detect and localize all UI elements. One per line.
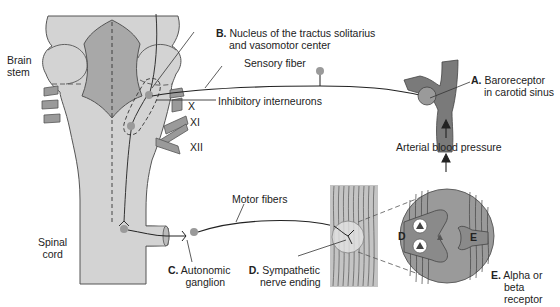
label-spinal-cord-line1: Spinal — [38, 236, 67, 248]
label-d: D. Sympathetic nerve ending — [248, 264, 321, 288]
label-c: C. Autonomic ganglion — [168, 264, 230, 288]
label-cranial-nerve-x: X — [188, 100, 195, 112]
label-cranial-nerve-xii: XII — [190, 141, 203, 153]
label-a-line1: Baroreceptor — [484, 74, 545, 86]
sensory-fiber-leader — [205, 66, 222, 88]
label-a: A. Baroreceptor in carotid sinus — [471, 74, 554, 98]
label-brain-stem-line1: Brain — [7, 54, 32, 66]
label-e: E. Alpha or beta receptor — [491, 269, 543, 305]
label-d-line2: nerve ending — [248, 276, 321, 288]
label-d-letter: D. — [249, 264, 260, 276]
label-cranial-nerve-xi: XI — [190, 116, 200, 128]
label-spinal-cord-line2: cord — [38, 248, 67, 260]
label-motor-fibers: Motor fibers — [232, 193, 287, 205]
label-c-line2: ganglion — [168, 276, 230, 288]
inset-label-d: D — [398, 230, 406, 242]
motor-fibers — [198, 221, 334, 232]
cranial-nerve-roots-left — [42, 86, 60, 123]
label-c-leader — [187, 240, 192, 262]
label-e-line2: beta — [491, 281, 543, 293]
label-arterial-blood-pressure: Arterial blood pressure — [396, 141, 502, 153]
label-brain-stem: Brain stem — [7, 54, 32, 78]
label-b: B. Nucleus of the tractus solitarius and… — [216, 27, 375, 51]
label-c-letter: C. — [168, 264, 179, 276]
carotid-artery — [404, 60, 458, 152]
label-b-letter: B. — [216, 27, 227, 39]
label-b-line1: Nucleus of the tractus solitarius — [229, 27, 375, 39]
label-sensory-fiber: Sensory fiber — [244, 57, 306, 69]
blood-vessel-wall — [330, 185, 378, 287]
label-brain-stem-line2: stem — [7, 66, 32, 78]
synapse-inset — [400, 189, 494, 284]
label-inhibitory-interneurons: Inhibitory interneurons — [218, 95, 322, 107]
label-e-line3: receptor — [491, 293, 543, 305]
baroreceptor-reflex-diagram: Brain stem Spinal cord X XI XII B. Nucle… — [0, 0, 560, 307]
label-spinal-cord: Spinal cord — [38, 236, 67, 260]
label-e-letter: E. — [491, 269, 501, 281]
label-b-line2: and vasomotor center — [216, 39, 375, 51]
label-d-line1: Sympathetic — [262, 264, 320, 276]
label-a-letter: A. — [471, 74, 482, 86]
motor-fibers-leader — [236, 204, 244, 222]
label-c-line1: Autonomic — [181, 264, 231, 276]
label-e-line1: Alpha or — [503, 269, 542, 281]
inset-label-e: E — [470, 231, 477, 243]
label-a-line2: in carotid sinus — [471, 86, 554, 98]
